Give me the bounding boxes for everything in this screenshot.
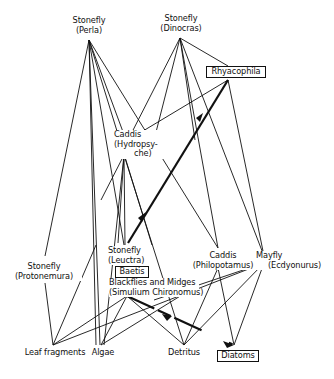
edge-protonemura-leaf [45, 283, 53, 345]
node-stonefly-dinocras: Stonefly (Dinocras) [156, 14, 206, 33]
node-leuctra-line2: (Leuctra) [108, 256, 150, 266]
node-rhyacophila-line1: Rhyacophila [209, 67, 263, 77]
node-rhyacophila: Rhyacophila [206, 66, 266, 78]
edge-ecdyonurus-leaf [53, 263, 264, 345]
node-baetis-line1: Baetis [118, 267, 146, 277]
node-philopotamus-line2: (Philopotamus) [192, 261, 254, 271]
node-algae-line1: Algae [90, 348, 116, 358]
node-leaf-fragments: Leaf fragments [22, 348, 88, 358]
node-hydropsyche-line3: che) [114, 149, 164, 159]
edge-blackflies-diatoms [127, 296, 234, 345]
arrowhead-blackflies-2 [223, 341, 234, 348]
edge-hydropsyche-protonemura [101, 155, 124, 200]
node-protonemura-line2: (Protonemura) [6, 272, 82, 282]
edge-blackflies-detritus [127, 296, 184, 345]
edges-layer [0, 0, 334, 379]
node-blackflies-line2: (Simulium Chironomus) [109, 288, 199, 298]
node-leaf-line1: Leaf fragments [22, 348, 88, 358]
node-perla-line2: (Perla) [66, 26, 112, 36]
node-mayfly-ecdyonurus: Mayfly (Ecdyonurus) [254, 251, 318, 270]
node-ecdyonurus-line2: (Ecdyonurus) [254, 261, 318, 271]
edge-blackflies-algae [101, 296, 127, 345]
node-algae: Algae [90, 348, 116, 358]
edge-ecdyonurus-detritus [184, 263, 264, 345]
node-diatoms-line1: Diatoms [220, 351, 256, 361]
food-web-diagram: Stonefly (Perla) Stonefly (Dinocras) Rhy… [0, 0, 334, 379]
node-caddis-philopotamus: Caddis (Philopotamus) [192, 251, 254, 270]
node-blackflies-midges: Blackflies and Midges (Simulium Chironom… [109, 278, 199, 297]
node-baetis: Baetis [115, 266, 149, 278]
edge-ecdyonurus-diatoms [234, 263, 264, 345]
node-detritus: Detritus [164, 348, 204, 358]
node-stonefly-leuctra: Stonefly (Leuctra) [108, 246, 150, 265]
node-detritus-line1: Detritus [164, 348, 204, 358]
node-stonefly-protonemura: Stonefly (Protonemura) [6, 262, 82, 281]
edge-dinocras-leuctra [154, 38, 180, 140]
edge-leuctra-leaf [53, 245, 96, 345]
node-dinocras-line2: (Dinocras) [156, 24, 206, 34]
edge-philopotamus-algae [101, 290, 190, 345]
edge-dinocras-rhyacophila [180, 38, 228, 66]
edge-rhyacophila-ecdyonurus [228, 80, 264, 256]
node-caddis-hydropsyche: Caddis (Hydropsy- che) [110, 130, 164, 159]
node-stonefly-perla: Stonefly (Perla) [66, 16, 112, 35]
node-diatoms: Diatoms [217, 350, 259, 362]
edge-hydropsyche-leuctra-a [124, 155, 125, 245]
edge-perla-protonemura [45, 40, 89, 256]
edge-dinocras-x [180, 38, 195, 140]
